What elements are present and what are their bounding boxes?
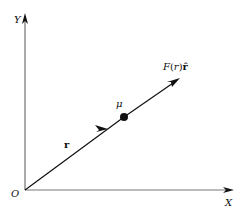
central-force-diagram: Y X O r μ F(r)r̂ xyxy=(0,0,244,218)
origin-label: O xyxy=(11,188,19,199)
force-vector-label: F(r)r̂ xyxy=(162,61,189,72)
position-vector xyxy=(25,117,124,190)
force-label-unit-vector: r̂ xyxy=(183,61,189,72)
x-axis xyxy=(25,187,234,193)
y-axis-label: Y xyxy=(14,14,22,25)
force-vector xyxy=(124,78,180,117)
particle-point xyxy=(120,113,128,121)
y-axis xyxy=(22,13,28,190)
position-vector-label: r xyxy=(64,139,70,150)
x-axis-label: X xyxy=(224,197,233,208)
particle-label: μ xyxy=(116,98,123,109)
